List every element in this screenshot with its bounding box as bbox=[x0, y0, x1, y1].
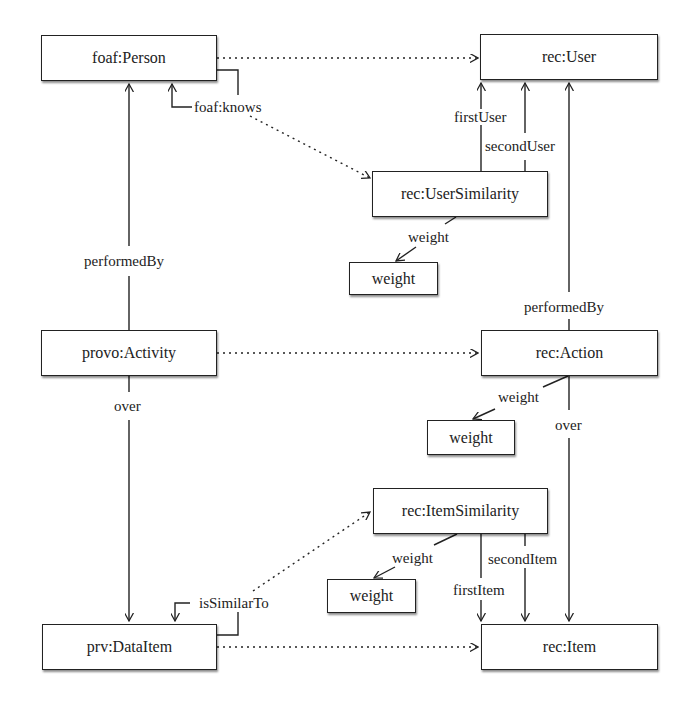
edge-label-first-item: firstItem bbox=[451, 582, 507, 598]
node-foaf-person[interactable]: foaf:Person bbox=[41, 35, 217, 81]
node-weight-item-similarity[interactable]: weight bbox=[327, 579, 416, 613]
edge-label-activity-performed-by: performedBy bbox=[82, 253, 166, 269]
edge-is-similar-to-return bbox=[175, 603, 190, 621]
node-weight-action[interactable]: weight bbox=[427, 420, 515, 455]
edge-label-action-over: over bbox=[553, 417, 584, 433]
node-label: weight bbox=[350, 587, 394, 605]
node-rec-action[interactable]: rec:Action bbox=[481, 330, 658, 376]
edge-label-second-user: secondUser bbox=[483, 138, 557, 154]
node-rec-item[interactable]: rec:Item bbox=[481, 624, 658, 670]
node-label: weight bbox=[449, 429, 493, 447]
edge-label-foaf-knows: foaf:knows bbox=[192, 99, 264, 115]
edge-label-action-weight: weight bbox=[496, 389, 541, 405]
edge-label-second-item: secondItem bbox=[486, 551, 559, 567]
node-weight-user-similarity[interactable]: weight bbox=[349, 262, 438, 295]
edge-label-item-sim-weight: weight bbox=[390, 550, 435, 566]
edge-label-activity-over: over bbox=[112, 398, 143, 414]
node-rec-user[interactable]: rec:User bbox=[480, 34, 658, 80]
node-label: weight bbox=[372, 270, 416, 288]
node-prv-dataitem[interactable]: prv:DataItem bbox=[42, 624, 217, 670]
edge-itemsim-weight bbox=[434, 534, 457, 545]
node-rec-item-similarity[interactable]: rec:ItemSimilarity bbox=[373, 488, 548, 534]
edge-foaf-knows bbox=[217, 70, 238, 95]
node-rec-user-similarity[interactable]: rec:UserSimilarity bbox=[372, 171, 548, 217]
node-label: rec:UserSimilarity bbox=[401, 185, 519, 203]
edge-label-is-similar-to: isSimilarTo bbox=[197, 595, 271, 611]
node-label: rec:Action bbox=[536, 344, 604, 362]
edge-person-usersim bbox=[250, 116, 370, 178]
edge-label-first-user: firstUser bbox=[452, 109, 509, 125]
edge-action-weight bbox=[543, 376, 568, 387]
node-label: rec:ItemSimilarity bbox=[402, 502, 519, 520]
node-provo-activity[interactable]: provo:Activity bbox=[41, 330, 217, 376]
node-label: rec:User bbox=[542, 48, 596, 66]
edge-usersim-weight bbox=[445, 217, 456, 224]
edge-label-usersim-weight: weight bbox=[406, 229, 451, 245]
node-label: foaf:Person bbox=[92, 49, 166, 67]
node-label: provo:Activity bbox=[82, 344, 176, 362]
edge-foaf-knows-return bbox=[172, 84, 193, 107]
edge-is-similar-to bbox=[217, 612, 238, 635]
node-label: prv:DataItem bbox=[87, 638, 172, 656]
edge-label-action-performed-by: performedBy bbox=[522, 299, 606, 315]
node-label: rec:Item bbox=[543, 638, 596, 656]
